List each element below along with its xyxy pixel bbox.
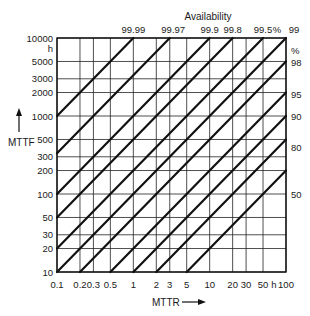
availability-line [57,38,286,272]
top-availability-label: 99.99 [121,24,145,35]
x-tick-label: 0.3 [87,279,100,290]
y-tick-label: 10 [42,267,53,278]
right-availability-label: 50 [291,189,302,200]
y-tick-label: 300 [37,151,53,162]
top-availability-label: 99.5 [254,24,273,35]
availability-line [80,61,286,272]
top-availability-label: 99.8 [223,24,242,35]
y-tick-label: 1000 [32,111,53,122]
right-availability-label: 90 [291,111,302,122]
x-tick-label: 0.1 [50,279,63,290]
y-axis-title-group: MTTF [8,108,35,148]
availability-nomogram: 1020305010020030050010002000300050001000… [0,0,310,316]
top-availability-label: 99 [289,24,300,35]
x-tick-label: 100 [278,279,294,290]
right-availability-labels: %9895908050 [291,45,302,200]
x-tick-label: 5 [184,279,189,290]
y-tick-label: 50 [42,212,53,223]
y-unit-label: h [48,43,53,54]
availability-line [187,171,286,272]
right-availability-label: 95 [291,89,302,100]
x-axis-ticks: 0.10.20.30.5123510203050100h [50,279,294,290]
y-tick-label: 20 [42,243,53,254]
x-axis-title-group: MTTR [152,297,206,308]
right-availability-label: 80 [291,142,302,153]
y-tick-label: 10000 [27,33,53,44]
chart-canvas: 1020305010020030050010002000300050001000… [0,0,310,316]
y-tick-label: 500 [37,134,53,145]
x-tick-label: 0.2 [73,279,86,290]
x-tick-label: 30 [241,279,252,290]
x-axis-title: MTTR [152,297,180,308]
availability-line [57,38,133,116]
availability-lines [57,38,286,272]
availability-line [57,38,263,249]
top-availability-label: 99.97 [161,24,185,35]
y-tick-label: 3000 [32,73,53,84]
y-tick-label: 2000 [32,87,53,98]
x-tick-label: 0.5 [104,279,117,290]
x-tick-label: 10 [204,279,215,290]
x-tick-label: 20 [227,279,238,290]
y-tick-label: 5000 [32,56,53,67]
top-availability-label: % [273,24,282,35]
x-tick-label: 50 [258,279,269,290]
up-arrow-icon [16,108,22,116]
availability-line [110,93,286,272]
top-availability-label: 99.9 [200,24,219,35]
right-availability-label: % [291,45,300,56]
y-tick-label: 100 [37,189,53,200]
right-arrow-icon [198,299,206,305]
y-tick-label: 200 [37,165,53,176]
x-tick-label: 2 [154,279,159,290]
top-availability-labels: 99.9999.9799.999.899.5%99 [121,24,299,35]
x-tick-label: 1 [131,279,136,290]
y-tick-label: 30 [42,229,53,240]
x-tick-label: 3 [167,279,172,290]
y-axis-ticks: 1020305010020030050010002000300050001000… [27,33,53,278]
y-axis-title: MTTF [8,137,35,148]
right-availability-label: 98 [291,57,302,68]
chart-title: Availability [184,11,231,22]
x-unit-label: h [271,279,276,290]
